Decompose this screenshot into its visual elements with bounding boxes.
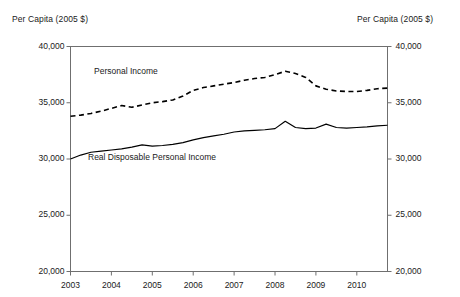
y-tick-label-left: 40,000	[19, 41, 65, 51]
y-tick-label-right: 30,000	[396, 153, 442, 163]
x-tick-label: 2005	[132, 280, 172, 290]
plot-area	[0, 0, 460, 297]
series-label-personal-income: Personal Income	[94, 66, 158, 76]
chart-container: Per Capita (2005 $) Per Capita (2005 $) …	[0, 0, 460, 297]
y-tick-label-left: 20,000	[19, 266, 65, 276]
x-tick-label: 2003	[51, 280, 91, 290]
y-tick-label-left: 30,000	[19, 153, 65, 163]
y-tick-label-right: 20,000	[396, 266, 442, 276]
y-tick-label-right: 40,000	[396, 41, 442, 51]
x-tick-label: 2010	[337, 280, 377, 290]
y-tick-label-right: 35,000	[396, 97, 442, 107]
y-tick-label-right: 25,000	[396, 209, 442, 219]
x-tick-label: 2009	[296, 280, 336, 290]
x-tick-label: 2007	[214, 280, 254, 290]
y-tick-label-left: 25,000	[19, 209, 65, 219]
x-tick-label: 2008	[255, 280, 295, 290]
x-tick-label: 2004	[91, 280, 131, 290]
series-line-personal-income	[71, 71, 388, 116]
y-tick-label-left: 35,000	[19, 97, 65, 107]
series-label-real-disposable: Real Disposable Personal Income	[88, 152, 216, 162]
x-tick-marks	[71, 272, 357, 276]
x-tick-label: 2006	[173, 280, 213, 290]
